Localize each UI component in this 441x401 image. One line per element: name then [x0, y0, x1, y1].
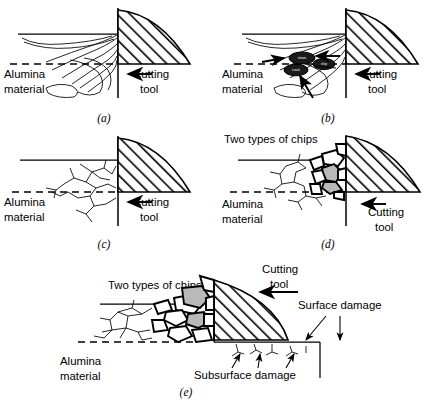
crack-network: [46, 160, 116, 222]
panel-d-drawing: Two types of chips: [218, 130, 441, 258]
cutting-tool-label-line1: Cutting: [133, 196, 169, 208]
panel-b-drawing: strain chip crack Alumina material Cutti…: [218, 0, 441, 133]
crack-network: [94, 300, 152, 340]
subsurface-damage-label: Subsurface damage: [194, 369, 296, 381]
cutting-tool-body: [118, 138, 190, 192]
panel-d: Two types of chips: [218, 130, 441, 258]
cutting-tool-label-line2: tool: [375, 221, 393, 233]
alumina-label-line2: material: [222, 83, 263, 95]
panel-tag-a: (a): [97, 112, 111, 125]
alumina-label-line1: Alumina: [4, 196, 46, 208]
cutting-tool-label-line1: Cutting: [368, 206, 404, 218]
figure-root: Alumina material Cutting tool (a): [0, 0, 441, 401]
cutting-tool-body: [118, 10, 190, 64]
callout-ellipse-strain-label: strain: [298, 56, 306, 60]
panel-tag-c: (c): [98, 238, 111, 251]
panel-e-drawing: Cutting tool Two types of chips: [48, 258, 441, 401]
panel-a-drawing: Alumina material Cutting tool (a): [0, 0, 215, 133]
panel-b: strain chip crack Alumina material Cutti…: [218, 0, 441, 133]
alumina-label-line1: Alumina: [4, 68, 46, 80]
alumina-label-line2: material: [4, 211, 45, 223]
callout-ellipse-chip-label: chip: [321, 62, 327, 66]
alumina-label-line2: material: [4, 83, 45, 95]
cutting-tool-label-line1: Cutting: [133, 68, 169, 80]
cutting-tool-label-line2: tool: [140, 211, 158, 223]
two-types-of-chips-label: Two types of chips: [224, 133, 318, 145]
surface-damage-arrows: [306, 316, 340, 340]
alumina-label-line1: Alumina: [222, 198, 264, 210]
alumina-label-line2: material: [222, 213, 263, 225]
alumina-label-line2: material: [60, 370, 101, 382]
alumina-label-line1: Alumina: [60, 355, 102, 367]
cutting-tool-label-line2: tool: [270, 278, 288, 290]
panel-c-drawing: Alumina material Cutting tool (c): [0, 134, 215, 258]
subsurface-damage-arrows: [232, 354, 294, 368]
surface-damage-label: Surface damage: [298, 299, 382, 311]
panel-c: Alumina material Cutting tool (c): [0, 134, 215, 258]
alumina-label-line1: Alumina: [222, 68, 264, 80]
cutting-tool-label-line2: tool: [140, 83, 158, 95]
cutting-tool-label-line2: tool: [368, 83, 386, 95]
panel-tag-d: (d): [321, 238, 335, 251]
cutting-tool-body: [346, 136, 420, 192]
subsurface-damage-cracks: [232, 344, 306, 356]
panel-e: Cutting tool Two types of chips: [48, 258, 441, 401]
panel-a: Alumina material Cutting tool (a): [0, 0, 215, 133]
panel-tag-b: (b): [321, 112, 335, 125]
callout-ellipse-crack-label: crack: [292, 68, 300, 72]
chip-fragments: [310, 144, 346, 200]
cutting-tool-label-line1: Cutting: [262, 263, 298, 275]
panel-tag-e: (e): [180, 386, 193, 399]
cutting-tool-label-line1: Cutting: [361, 68, 397, 80]
cutting-tool-body: [346, 10, 418, 64]
